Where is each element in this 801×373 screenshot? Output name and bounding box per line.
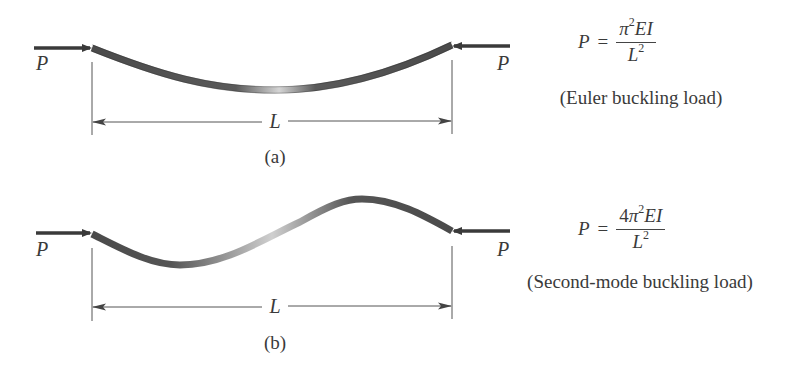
subfigure-label-a: (a) [264,146,285,168]
load-label-left-b: P [36,238,48,261]
numerator-coeff: 4 [619,205,629,226]
buckled-column-second-mode [92,199,452,265]
denominator-l: L [628,44,639,65]
caption-b: (Second-mode buckling load) [527,271,753,293]
euler-formula: P = π2EI L2 [578,18,656,66]
numerator-exponent: 2 [638,202,644,216]
denominator-exponent: 2 [643,228,649,242]
denominator-l: L [633,231,644,252]
formula-denominator: L2 [633,230,650,253]
numerator-ei: EI [635,18,653,39]
numerator-ei: EI [644,205,662,226]
load-label-left-a: P [36,52,48,75]
formula-equals: = [598,31,609,53]
formula-lhs: P [578,218,590,240]
formula-numerator: π2EI [616,18,655,43]
caption-a: (Euler buckling load) [560,87,723,109]
formula-numerator: 4π2EI [616,205,665,230]
numerator-exponent: 2 [629,15,635,29]
load-label-right-a: P [497,52,509,75]
load-label-right-b: P [497,238,509,261]
second-mode-formula: P = 4π2EI L2 [578,205,665,253]
buckled-column-first-mode [92,45,452,90]
buckling-diagram [0,0,801,373]
length-label-a: L [266,110,283,133]
formula-lhs: P [578,31,590,53]
formula-denominator: L2 [628,43,645,66]
numerator-pi: π [629,205,639,226]
formula-equals: = [598,218,609,240]
subfigure-label-b: (b) [264,332,286,354]
denominator-exponent: 2 [638,41,644,55]
formula-fraction: π2EI L2 [616,18,655,66]
formula-fraction: 4π2EI L2 [616,205,665,253]
numerator-pi: π [619,18,629,39]
length-label-b: L [266,295,283,318]
